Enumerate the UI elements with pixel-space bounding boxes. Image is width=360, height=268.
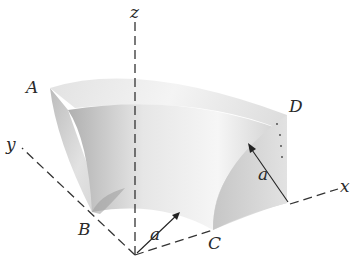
point-a-label: A — [24, 77, 38, 97]
x-axis-outer — [290, 189, 338, 204]
point-d-label: D — [288, 96, 303, 116]
point-b-label: B — [77, 219, 91, 239]
diagram-root: z y x A D B C a a — [0, 0, 360, 268]
solid-figure: z y x A D B C a a — [0, 0, 360, 268]
point-c-label: C — [208, 233, 221, 253]
outer-radius-label: a — [258, 164, 268, 184]
y-axis-label: y — [5, 134, 16, 154]
x-axis-label: x — [340, 176, 350, 196]
x-axis — [135, 230, 213, 255]
inner-radius-label: a — [150, 224, 160, 244]
z-axis-label: z — [129, 2, 140, 22]
